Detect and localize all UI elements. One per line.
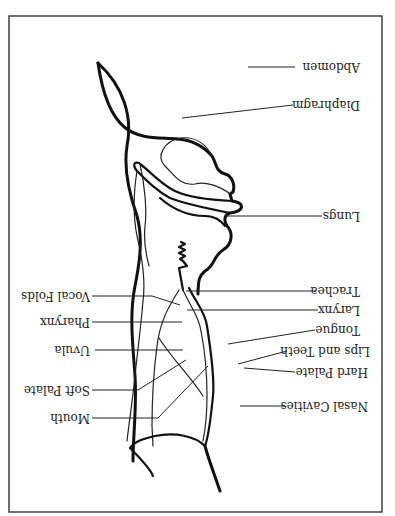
vocal-folds-zigzag bbox=[179, 242, 185, 261]
diagram-frame bbox=[9, 16, 382, 512]
label-uvula: Uvula bbox=[54, 343, 90, 357]
diaphragm-outline bbox=[130, 434, 205, 476]
label-hard-palate: Hard Palate bbox=[296, 365, 368, 379]
label-vocal-folds: Vocal Folds bbox=[21, 289, 91, 303]
label-lips-and-teeth: Lips and Teeth bbox=[280, 344, 370, 358]
label-pharynx: Pharynx bbox=[40, 315, 90, 329]
label-mouth: Mouth bbox=[50, 411, 90, 425]
trachea-top bbox=[179, 261, 187, 290]
label-lungs: Lungs bbox=[323, 209, 360, 223]
label-soft-palate: Soft Palate bbox=[24, 383, 90, 397]
tongue-outline bbox=[160, 198, 225, 226]
label-tongue: Tongue bbox=[315, 323, 360, 337]
labels: Abdomen Diaphragm Lungs Trachea Larynx T… bbox=[21, 60, 370, 425]
label-abdomen: Abdomen bbox=[302, 60, 361, 74]
lung-front bbox=[189, 288, 213, 446]
label-nasal-cavities: Nasal Cavities bbox=[281, 399, 369, 413]
lung-back bbox=[152, 290, 179, 446]
abdomen-outline bbox=[205, 446, 220, 491]
leader-lines bbox=[92, 67, 322, 418]
lung-inner-diagonal bbox=[159, 338, 203, 396]
speech-organs-diagram: Abdomen Diaphragm Lungs Trachea Larynx T… bbox=[0, 0, 395, 516]
nasal-cavity-outline bbox=[161, 138, 230, 194]
label-larynx: Larynx bbox=[318, 303, 360, 317]
label-diaphragm: Diaphragm bbox=[291, 98, 360, 112]
label-trachea: Trachea bbox=[310, 284, 360, 298]
